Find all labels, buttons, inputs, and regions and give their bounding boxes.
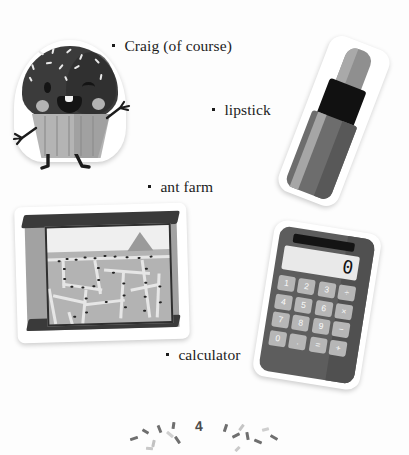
confetti-fleck <box>238 424 245 431</box>
cupcake-eye-wink <box>82 82 95 92</box>
calculator-key[interactable]: 3 <box>317 281 336 298</box>
cupcake-eye-open <box>44 82 51 93</box>
bullet-icon <box>148 185 151 188</box>
ant <box>144 282 147 284</box>
lipstick-sticker <box>276 32 396 210</box>
ant-hill-mound <box>127 232 154 252</box>
cupcake-leg-right <box>70 154 96 180</box>
ant <box>138 257 141 259</box>
page-number: 4 <box>194 418 203 435</box>
list-item-craig: Craig (of course) <box>112 37 232 55</box>
confetti-fleck <box>130 436 139 441</box>
ant <box>126 256 129 258</box>
calculator-key[interactable]: 0 <box>268 330 287 347</box>
confetti-fleck <box>234 446 240 452</box>
list-item-label: Craig (of course) <box>124 37 232 55</box>
confetti-fleck <box>142 428 150 434</box>
calculator-key[interactable]: 6 <box>314 299 333 316</box>
ant <box>112 272 115 274</box>
calculator-key[interactable]: 9 <box>311 318 330 335</box>
ant <box>58 260 61 262</box>
confetti-fleck <box>223 424 228 433</box>
cupcake-sticker <box>8 38 136 173</box>
cupcake-leg-left <box>40 154 66 180</box>
list-item-label: ant farm <box>160 178 213 196</box>
calculator-key[interactable]: . <box>288 333 307 350</box>
ant <box>84 256 87 258</box>
list-item-label: lipstick <box>224 101 270 119</box>
tunnel <box>53 294 87 304</box>
confetti-fleck <box>270 434 278 441</box>
calculator-key[interactable]: 1 <box>277 275 296 292</box>
list-item-calculator: calculator <box>166 346 241 364</box>
list-item-ant-farm: ant farm <box>148 178 213 196</box>
confetti-fleck <box>232 432 241 438</box>
liner-pleat <box>56 116 58 156</box>
calculator-key[interactable]: 8 <box>291 314 310 331</box>
ant <box>63 268 66 270</box>
cupcake-arm-right <box>104 100 134 130</box>
confetti-fleck <box>262 427 270 432</box>
ant-farm-rotation-group <box>14 203 190 344</box>
list-item-label: calculator <box>178 346 240 364</box>
ant <box>85 311 88 313</box>
page-canvas: 0 123÷456×789−0.=+ Craig (of course) lip… <box>0 0 409 455</box>
tunnel <box>67 312 74 326</box>
ant <box>122 282 125 284</box>
confetti-fleck <box>151 440 155 447</box>
calculator-key[interactable]: = <box>308 336 327 353</box>
calculator-rotation-group: 0 123÷456×789−0.=+ <box>251 219 382 392</box>
ant <box>105 301 108 303</box>
ant <box>97 267 100 269</box>
ant-farm-sticker <box>14 203 192 346</box>
ant <box>92 285 95 287</box>
ant <box>150 256 153 258</box>
ant <box>114 256 117 258</box>
bullet-icon <box>212 108 215 111</box>
ant <box>63 278 66 280</box>
cupcake-tooth <box>65 96 73 102</box>
bullet-icon <box>166 353 169 356</box>
ant <box>103 255 106 257</box>
liner-pleat <box>44 116 46 156</box>
confetti-fleck <box>172 422 176 429</box>
liner-pleat <box>92 116 94 156</box>
calculator-key[interactable]: + <box>329 339 348 356</box>
calculator-key[interactable]: 5 <box>294 296 313 313</box>
calculator-display-value: 0 <box>341 257 354 278</box>
liner-pleat <box>80 116 82 156</box>
tunnel <box>81 289 87 323</box>
ant <box>97 279 100 281</box>
confetti-fleck <box>146 447 153 451</box>
calculator-keypad[interactable]: 123÷456×789−0.=+ <box>268 275 356 357</box>
bullet-icon <box>112 44 115 47</box>
confetti-fleck <box>245 432 249 440</box>
cupcake-blush-left <box>36 100 49 112</box>
ant <box>143 310 146 312</box>
calculator-key[interactable]: × <box>334 303 353 320</box>
calculator-key[interactable]: 7 <box>271 311 290 328</box>
calculator-key[interactable]: 2 <box>297 278 316 295</box>
ant <box>123 294 126 296</box>
ant <box>85 297 88 299</box>
calculator-key[interactable]: ÷ <box>337 284 356 301</box>
confetti-fleck <box>157 425 163 434</box>
ant <box>124 306 127 308</box>
cupcake-arm-left <box>10 122 40 152</box>
ant <box>81 287 84 289</box>
ant <box>70 286 73 288</box>
confetti-fleck <box>174 436 181 444</box>
ant <box>66 258 69 260</box>
ant <box>158 285 161 287</box>
ant <box>73 316 76 318</box>
ant <box>75 259 78 261</box>
ant <box>145 268 148 270</box>
calculator-key[interactable]: 4 <box>274 293 293 310</box>
tunnel <box>156 273 161 317</box>
calculator-sticker: 0 123÷456×789−0.=+ <box>255 222 403 392</box>
ant-farm-glass <box>45 223 174 326</box>
calculator-key[interactable]: − <box>332 321 351 338</box>
confetti-fleck <box>254 439 263 445</box>
list-item-lipstick: lipstick <box>212 101 271 119</box>
lipstick-rotation-group <box>274 32 393 210</box>
